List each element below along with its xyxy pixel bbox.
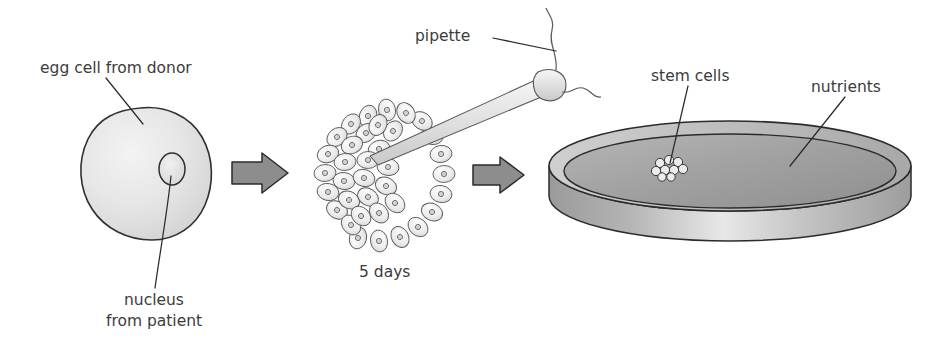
label-stem-cells: stem cells: [651, 67, 729, 85]
arrow-1: [232, 153, 288, 193]
stage-egg-cell: [81, 78, 212, 288]
label-pipette: pipette: [415, 27, 470, 45]
inner-cell-mass: [313, 103, 409, 239]
label-five-days: 5 days: [359, 263, 410, 281]
egg-nucleus: [159, 153, 185, 185]
pipette-tube-lower: [562, 88, 601, 97]
label-nucleus-line2: from patient: [106, 312, 202, 330]
pipette: [370, 8, 601, 165]
stem-cell-diagram: egg cell from donor nucleus from patient…: [0, 0, 936, 347]
pipette-leader-line: [493, 38, 556, 51]
pipette-bulb: [533, 70, 566, 101]
label-nucleus-line1: nucleus: [124, 291, 184, 309]
dish-nutrient-surface: [564, 134, 896, 208]
label-nutrients: nutrients: [811, 78, 881, 96]
arrow-2: [473, 157, 524, 193]
stage-petri-dish: [549, 86, 911, 241]
pipette-tube-upper: [546, 8, 556, 70]
label-egg-cell: egg cell from donor: [40, 59, 192, 77]
egg-cell-body: [81, 108, 212, 240]
